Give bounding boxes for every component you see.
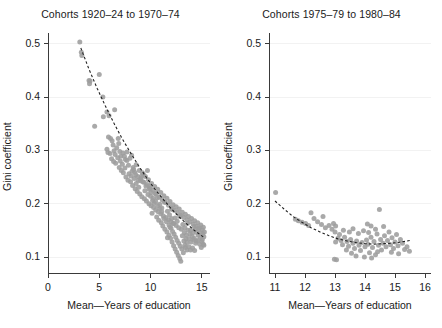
- data-point: [182, 243, 187, 248]
- x-axis-title-right: Mean—Years of education: [269, 299, 431, 311]
- y-tick-label: 0.5: [10, 37, 40, 49]
- plot-area-right: [269, 33, 431, 273]
- data-point: [168, 225, 173, 230]
- x-tick-label: 15: [187, 281, 217, 293]
- y-tick-label: 0.2: [231, 197, 261, 209]
- plot-svg-right: [269, 33, 431, 273]
- y-tick-label: 0.3: [10, 143, 40, 155]
- data-point: [333, 229, 338, 234]
- data-point: [122, 165, 127, 170]
- data-point: [390, 235, 395, 240]
- x-axis-title-left: Mean—Years of education: [48, 299, 210, 311]
- y-tick-label: 0.5: [231, 37, 261, 49]
- data-point: [150, 211, 155, 216]
- y-axis-title-right: Gini coefficient: [222, 122, 234, 191]
- plot-svg-left: [48, 33, 210, 273]
- data-point: [337, 232, 342, 237]
- data-point: [124, 158, 129, 163]
- data-point: [88, 79, 93, 84]
- panel-left-title: Cohorts 1920–24 to 1970–74: [0, 8, 221, 20]
- data-point: [384, 244, 389, 249]
- y-tick-label: 0.4: [10, 90, 40, 102]
- data-point: [372, 239, 377, 244]
- data-point: [118, 159, 123, 164]
- data-point: [201, 242, 206, 247]
- data-point: [342, 235, 347, 240]
- data-point: [382, 233, 387, 238]
- data-point: [110, 138, 115, 143]
- data-point: [178, 259, 183, 264]
- data-point: [201, 225, 206, 230]
- data-point: [367, 250, 372, 255]
- data-point: [101, 114, 106, 119]
- data-point: [143, 184, 148, 189]
- data-point: [340, 242, 345, 247]
- data-point: [177, 214, 182, 219]
- x-tick-label: 11: [260, 281, 290, 293]
- data-point: [116, 136, 121, 141]
- data-point: [370, 245, 375, 250]
- data-point: [165, 235, 170, 240]
- data-point: [108, 151, 113, 156]
- data-point: [394, 232, 399, 237]
- data-point: [364, 237, 369, 242]
- y-tick-label: 0.3: [231, 143, 261, 155]
- data-point: [385, 238, 390, 243]
- data-point: [356, 231, 361, 236]
- data-point: [151, 196, 156, 201]
- x-tick-label: 15: [380, 281, 410, 293]
- data-point: [341, 228, 346, 233]
- data-point: [140, 179, 145, 184]
- x-tick-label: 0: [33, 281, 63, 293]
- data-point: [113, 161, 118, 166]
- data-point: [375, 249, 380, 254]
- data-point: [369, 256, 374, 261]
- chart-panel-right: Cohorts 1975–79 to 1980–84 0.10.20.30.40…: [221, 0, 442, 328]
- data-point: [136, 178, 141, 183]
- x-tick-label: 16: [410, 281, 440, 293]
- data-point: [362, 255, 367, 260]
- y-tick-label: 0.1: [231, 250, 261, 262]
- data-point: [389, 250, 394, 255]
- figure-root: Cohorts 1920–24 to 1970–74 0.10.20.30.40…: [0, 0, 442, 328]
- data-point: [333, 224, 338, 229]
- data-point: [396, 251, 401, 256]
- data-point: [377, 207, 382, 212]
- data-point: [405, 244, 410, 249]
- x-tick-label: 12: [290, 281, 320, 293]
- data-point: [169, 216, 174, 221]
- data-point: [369, 235, 374, 240]
- data-point: [319, 222, 324, 227]
- data-point: [185, 228, 190, 233]
- data-point: [373, 227, 378, 232]
- data-point: [358, 248, 363, 253]
- data-point: [198, 231, 203, 236]
- data-point: [273, 190, 278, 195]
- data-point: [121, 170, 126, 175]
- x-tick-label: 14: [350, 281, 380, 293]
- y-tick-label: 0.1: [10, 250, 40, 262]
- panel-right-title: Cohorts 1975–79 to 1980–84: [221, 8, 442, 20]
- data-point: [136, 185, 141, 190]
- data-point: [124, 149, 129, 154]
- data-point: [194, 239, 199, 244]
- data-point: [354, 253, 359, 258]
- data-point: [347, 229, 352, 234]
- x-tick-label: 13: [320, 281, 350, 293]
- data-point: [181, 239, 186, 244]
- chart-panel-left: Cohorts 1920–24 to 1970–74 0.10.20.30.40…: [0, 0, 221, 328]
- data-point: [375, 232, 380, 237]
- data-point: [407, 249, 412, 254]
- data-point: [155, 203, 160, 208]
- data-point: [159, 220, 164, 225]
- data-point: [161, 216, 166, 221]
- data-point: [192, 248, 197, 253]
- data-point: [349, 251, 354, 256]
- data-point: [92, 124, 97, 129]
- data-point: [130, 169, 135, 174]
- data-point: [145, 168, 150, 173]
- data-point: [112, 107, 117, 112]
- data-point: [321, 214, 326, 219]
- y-tick-label: 0.4: [231, 90, 261, 102]
- data-point: [309, 210, 314, 215]
